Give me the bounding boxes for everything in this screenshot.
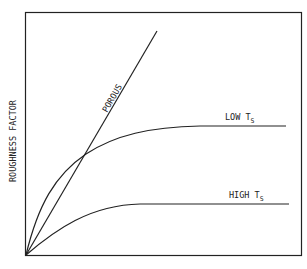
chart: POROUS LOW TS HIGH TS ROUGHNESS FACTOR — [0, 0, 307, 269]
high-ts-label: HIGH TS — [229, 190, 264, 203]
low-ts-label: LOW TS — [225, 112, 255, 125]
series-porous — [26, 31, 157, 255]
series-high-ts — [26, 204, 289, 255]
porous-label: POROUS — [100, 82, 124, 114]
y-axis-label: ROUGHNESS FACTOR — [8, 99, 18, 182]
plot-frame — [26, 13, 302, 256]
